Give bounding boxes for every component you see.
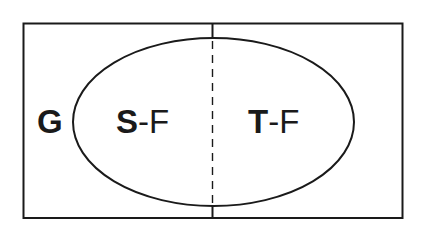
- region-right-label: T-F: [248, 105, 299, 138]
- region-right-prefix: T: [248, 103, 268, 140]
- region-left-separator: -: [138, 103, 149, 140]
- set-diagram: [0, 0, 423, 242]
- region-left-suffix: F: [149, 103, 169, 140]
- region-right-separator: -: [268, 103, 279, 140]
- region-right-suffix: F: [279, 103, 299, 140]
- region-left-prefix: S: [116, 103, 138, 140]
- outer-set-label: G: [37, 105, 63, 138]
- region-left-label: S-F: [116, 105, 169, 138]
